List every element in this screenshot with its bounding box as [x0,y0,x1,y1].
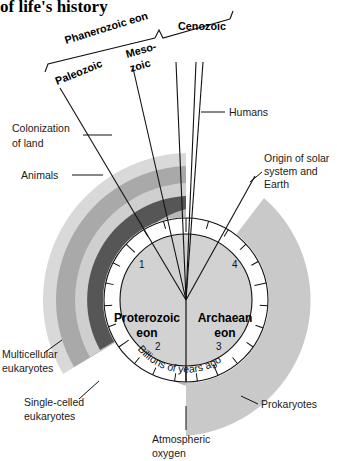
callout-multicellular-line1: Multicellular [2,348,58,360]
era-label-mesozoic-line1: Meso- [124,40,158,60]
dial-number-1: 1 [139,259,145,270]
figure-title: of life's history [0,0,108,16]
eon-label-archaean-line1: Archaean [198,311,253,325]
era-label-paleozoic: Paleozoic [53,57,104,87]
dial-number-2: 2 [155,341,161,352]
callout-atmospheric-line1: Atmospheric [152,433,210,445]
callout-origin-line2: system and [264,165,318,177]
eon-label-proterozoic-line1: Proterozoic [114,311,180,325]
callout-prokaryotes: Prokaryotes [261,398,317,410]
era-label-cenozoic: Cenozoic [178,20,226,32]
callout-single-celled-line2: eukaryotes [24,410,75,422]
clock-diagram-svg: of life's history Paleozoic Meso- zoic C… [0,0,337,461]
callout-colonization-line1: Colonization [12,122,70,134]
dial-number-3: 3 [216,341,222,352]
callout-colonization-line2: of land [12,137,44,149]
callout-single-celled-line1: Single-celled [24,396,84,408]
callout-origin-line3: Earth [264,178,289,190]
eon-label-archaean-line2: eon [214,326,235,340]
callout-multicellular-line2: eukaryotes [2,362,53,374]
era-label-mesozoic-line2: zoic [128,57,151,74]
callout-atmospheric-line2: oxygen [152,447,186,459]
geologic-clock-figure: of life's history Paleozoic Meso- zoic C… [0,0,337,461]
eon-label-proterozoic-line2: eon [136,326,157,340]
callout-humans: Humans [229,106,268,118]
dial-number-4: 4 [232,259,238,270]
callout-animals: Animals [21,169,58,181]
callout-origin-line1: Origin of solar [264,152,330,164]
